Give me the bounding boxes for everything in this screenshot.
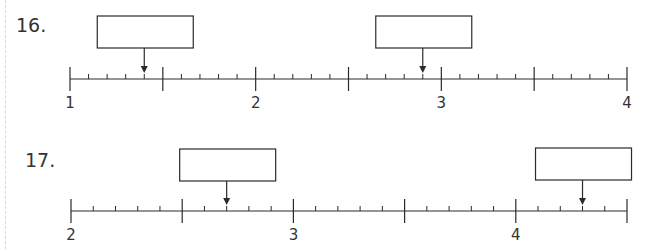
arrow-down-icon <box>223 198 230 205</box>
answer-box[interactable] <box>536 148 632 180</box>
answer-box[interactable] <box>180 149 276 181</box>
arrow-down-icon <box>579 198 586 205</box>
tick-label: 4 <box>622 94 632 112</box>
tick-label: 2 <box>66 226 76 244</box>
tick-label: 4 <box>511 226 521 244</box>
tick-label: 2 <box>251 94 261 112</box>
tick-label: 1 <box>65 94 75 112</box>
arrow-down-icon <box>141 66 148 73</box>
number-lines: 1234234 <box>0 0 659 249</box>
arrow-down-icon <box>419 66 426 73</box>
answer-box[interactable] <box>376 16 472 48</box>
answer-box[interactable] <box>97 16 193 48</box>
tick-label: 3 <box>437 94 447 112</box>
tick-label: 3 <box>289 226 299 244</box>
